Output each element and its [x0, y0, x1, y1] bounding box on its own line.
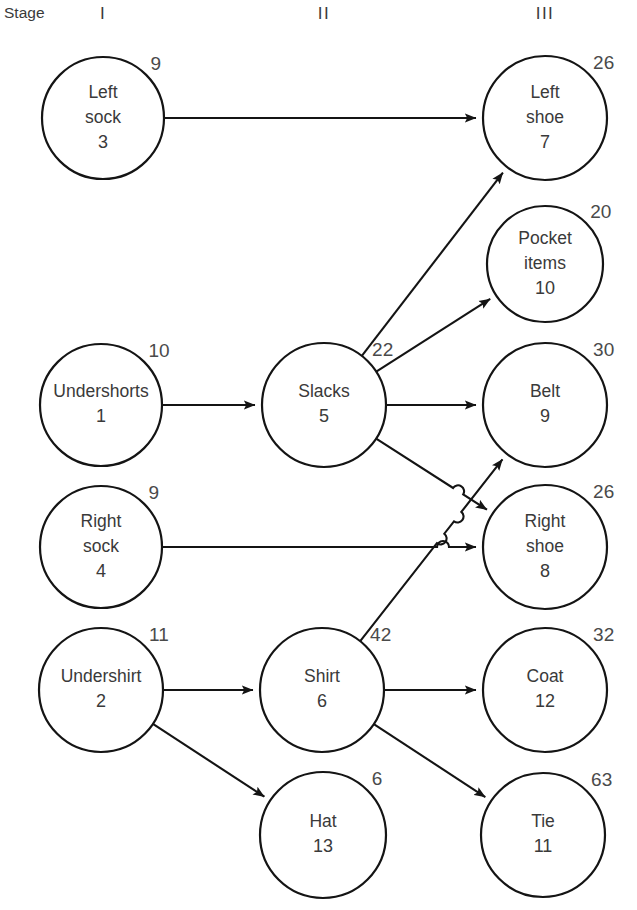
node-undershorts[interactable]: Undershorts110: [40, 340, 170, 466]
node-circle-tie[interactable]: [481, 773, 605, 897]
node-label-pocket-items: items: [524, 253, 566, 273]
node-label-undershorts: Undershorts: [53, 381, 149, 401]
node-circle-undershirt[interactable]: [39, 628, 163, 752]
node-label-pocket-items: Pocket: [518, 228, 572, 248]
edge-slacks-to-left-shoe: [362, 173, 503, 356]
edge-right-sock-to-right-shoe: [162, 541, 476, 547]
edge-slacks-to-pocket-items: [376, 299, 490, 372]
node-label-coat: Coat: [527, 666, 564, 686]
node-shirt[interactable]: Shirt642: [260, 624, 391, 752]
diagram-canvas: StageIIIIII Leftsock39Leftshoe726Pocketi…: [0, 0, 637, 910]
edge-undershirt-to-hat: [153, 724, 264, 797]
node-label-undershirt: Undershirt: [61, 666, 142, 686]
node-corner-value-slacks: 22: [372, 339, 393, 360]
node-label-left-sock: Left: [88, 82, 117, 102]
graph-diagram: StageIIIIII Leftsock39Leftshoe726Pocketi…: [0, 0, 637, 910]
node-corner-value-tie: 63: [591, 769, 612, 790]
node-number-tie: 11: [534, 836, 553, 856]
edge-shirt-to-tie: [374, 724, 485, 797]
node-number-undershorts: 1: [96, 406, 106, 426]
node-corner-value-hat: 6: [372, 768, 383, 789]
node-number-pocket-items: 10: [535, 278, 555, 298]
node-slacks[interactable]: Slacks522: [262, 339, 393, 467]
node-corner-value-right-sock: 9: [148, 482, 159, 503]
node-label-right-shoe: Right: [525, 511, 566, 531]
stage-column-iii: III: [536, 4, 555, 23]
node-number-left-sock: 3: [98, 132, 108, 152]
node-corner-value-left-shoe: 26: [593, 52, 614, 73]
node-circle-belt[interactable]: [483, 343, 607, 467]
node-circle-shirt[interactable]: [260, 628, 384, 752]
node-right-sock[interactable]: Rightsock49: [40, 482, 162, 608]
node-corner-value-pocket-items: 20: [590, 201, 611, 222]
node-label-left-shoe: Left: [530, 82, 559, 102]
node-corner-value-undershirt: 11: [149, 624, 169, 645]
node-right-shoe[interactable]: Rightshoe826: [483, 481, 614, 609]
stage-header: StageIIIIII: [4, 4, 554, 23]
node-belt[interactable]: Belt930: [483, 339, 614, 467]
node-circle-slacks[interactable]: [262, 343, 386, 467]
node-tie[interactable]: Tie1163: [481, 769, 612, 897]
node-corner-value-belt: 30: [593, 339, 614, 360]
node-label-right-sock: Right: [81, 511, 122, 531]
node-label-left-sock: sock: [85, 107, 121, 127]
node-number-slacks: 5: [319, 406, 329, 426]
node-hat[interactable]: Hat136: [260, 768, 386, 898]
node-label-left-shoe: shoe: [526, 107, 564, 127]
node-number-hat: 13: [313, 836, 333, 856]
stage-column-ii: II: [318, 4, 330, 23]
node-corner-value-right-shoe: 26: [593, 481, 614, 502]
stage-label: Stage: [4, 4, 45, 21]
node-label-shirt: Shirt: [304, 666, 340, 686]
node-label-right-sock: sock: [83, 536, 119, 556]
node-number-belt: 9: [540, 406, 550, 426]
node-number-undershirt: 2: [96, 691, 106, 711]
node-number-coat: 12: [535, 691, 555, 711]
node-number-left-shoe: 7: [540, 132, 550, 152]
node-number-right-sock: 4: [96, 561, 106, 581]
node-coat[interactable]: Coat1232: [483, 624, 614, 752]
node-left-shoe[interactable]: Leftshoe726: [483, 52, 614, 180]
node-corner-value-coat: 32: [593, 624, 614, 645]
node-label-tie: Tie: [531, 811, 555, 831]
node-number-shirt: 6: [317, 691, 327, 711]
node-corner-value-left-sock: 9: [150, 53, 161, 74]
node-label-slacks: Slacks: [298, 381, 350, 401]
stage-column-i: I: [100, 4, 106, 23]
node-label-belt: Belt: [530, 381, 560, 401]
node-corner-value-shirt: 42: [370, 624, 391, 645]
node-circle-undershorts[interactable]: [40, 344, 162, 466]
node-left-sock[interactable]: Leftsock39: [42, 53, 164, 179]
node-layer: Leftsock39Leftshoe726Pocketitems1020Unde…: [39, 52, 614, 898]
node-label-right-shoe: shoe: [526, 536, 564, 556]
node-corner-value-undershorts: 10: [148, 340, 169, 361]
node-number-right-shoe: 8: [540, 561, 550, 581]
node-circle-hat[interactable]: [260, 772, 386, 898]
node-label-hat: Hat: [309, 811, 336, 831]
edge-shirt-to-belt: [360, 459, 502, 641]
node-pocket-items[interactable]: Pocketitems1020: [487, 201, 611, 322]
node-circle-coat[interactable]: [483, 628, 607, 752]
node-undershirt[interactable]: Undershirt211: [39, 624, 169, 752]
